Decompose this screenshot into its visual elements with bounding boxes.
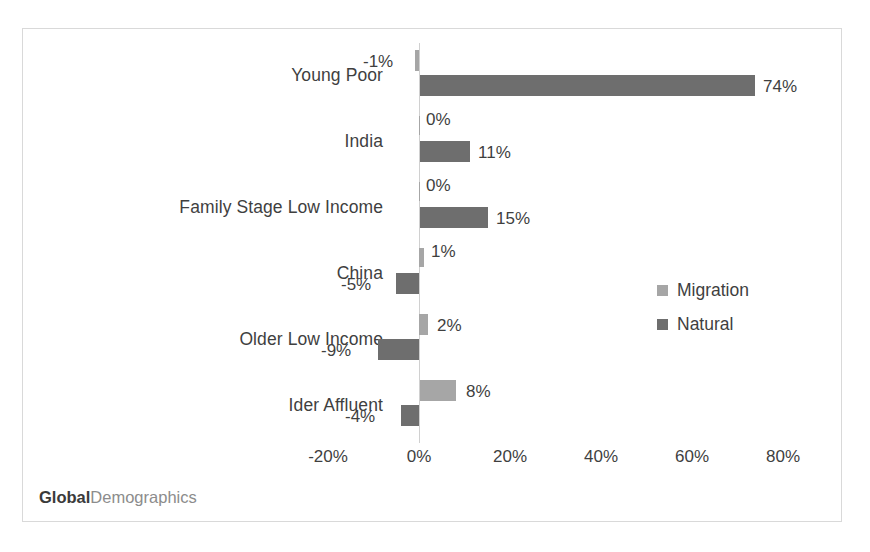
category-label: Family Stage Low Income: [179, 197, 383, 218]
legend-swatch-migration-icon: [657, 285, 668, 296]
bar-natural[interactable]: [420, 207, 488, 228]
chart-row-family-stage-low-income: Family Stage Low Income 0% 15%: [23, 175, 843, 239]
bar-value-migration: 8%: [466, 383, 491, 400]
bar-value-migration: -1%: [363, 53, 393, 70]
x-tick-label: 60%: [675, 447, 709, 467]
legend-label: Migration: [677, 280, 749, 301]
legend-label: Natural: [677, 314, 733, 335]
bar-value-migration: 1%: [431, 243, 456, 260]
bar-migration[interactable]: [419, 182, 420, 201]
bar-natural[interactable]: [420, 75, 755, 96]
x-axis-tick-labels: -20% 0% 20% 40% 60% 80%: [23, 447, 843, 477]
bar-value-migration: 0%: [426, 111, 451, 128]
bar-value-natural: -9%: [321, 342, 351, 359]
x-tick-label: 20%: [493, 447, 527, 467]
bar-value-natural: -5%: [341, 276, 371, 293]
chart-legend: Migration Natural: [657, 273, 827, 341]
bar-value-natural: 11%: [478, 144, 511, 161]
bar-value-natural: 15%: [496, 210, 530, 227]
legend-item-natural[interactable]: Natural: [657, 307, 827, 341]
x-tick-label: 80%: [766, 447, 800, 467]
x-tick-label: -20%: [308, 447, 348, 467]
bar-value-migration: 2%: [437, 317, 462, 334]
bar-migration[interactable]: [419, 314, 428, 335]
x-tick-label: 0%: [407, 447, 432, 467]
chart-row-india: India 0% 11%: [23, 109, 843, 173]
x-tick-label: 40%: [584, 447, 618, 467]
bar-migration[interactable]: [419, 116, 420, 135]
category-label: India: [345, 131, 383, 152]
brand-footer: GlobalDemographics: [39, 488, 197, 507]
bar-natural[interactable]: [378, 339, 419, 360]
chart-row-ider-affluent: Ider Affluent 8% -4%: [23, 373, 843, 437]
legend-item-migration[interactable]: Migration: [657, 273, 827, 307]
brand-name-light: Demographics: [90, 488, 196, 506]
chart-page: Young Poor -1% 74% India 0% 11% Family S…: [0, 0, 870, 552]
brand-name-strong: Global: [39, 488, 90, 506]
category-label: Older Low Income: [239, 329, 383, 350]
chart-frame: Young Poor -1% 74% India 0% 11% Family S…: [22, 28, 842, 522]
bar-migration[interactable]: [419, 248, 424, 267]
bar-migration[interactable]: [420, 380, 456, 401]
bar-value-natural: -4%: [345, 408, 375, 425]
legend-swatch-natural-icon: [657, 319, 668, 330]
bar-natural[interactable]: [401, 405, 419, 426]
bar-value-migration: 0%: [426, 177, 451, 194]
bar-natural[interactable]: [396, 273, 419, 294]
bar-natural[interactable]: [420, 141, 470, 162]
bar-value-natural: 74%: [763, 78, 797, 95]
chart-row-young-poor: Young Poor -1% 74%: [23, 43, 843, 107]
plot-area: Young Poor -1% 74% India 0% 11% Family S…: [23, 29, 843, 523]
bar-migration[interactable]: [415, 50, 420, 71]
